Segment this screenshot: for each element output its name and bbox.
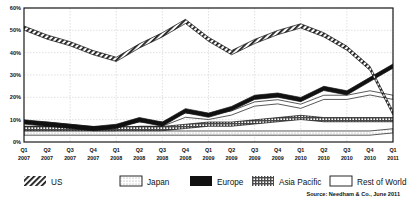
x-tick-label-year: 2009 <box>249 155 261 161</box>
legend-label-us: US <box>51 178 63 187</box>
y-tick-label: 0% <box>13 139 21 145</box>
x-tick-label-year: 2010 <box>364 155 376 161</box>
x-tick-label-year: 2007 <box>41 155 53 161</box>
x-tick-label-year: 2011 <box>387 155 399 161</box>
source-note: Source: Needham & Co., June 2011 <box>306 191 400 197</box>
x-tick-label-year: 2008 <box>179 155 191 161</box>
x-tick-label-quarter: Q1 <box>297 147 304 153</box>
x-tick-label-year: 2009 <box>203 155 215 161</box>
x-tick-label-year: 2009 <box>226 155 238 161</box>
x-tick-label-year: 2007 <box>87 155 99 161</box>
x-tick-label-quarter: Q2 <box>136 147 143 153</box>
x-tick-label-year: 2008 <box>110 155 122 161</box>
legend-swatch-japan <box>120 176 142 186</box>
legend-swatch-us <box>24 176 46 186</box>
x-tick-label-quarter: Q4 <box>366 147 373 153</box>
x-tick-label-year: 2009 <box>272 155 284 161</box>
y-tick-label: 30% <box>10 72 21 78</box>
y-tick-label: 60% <box>10 5 21 11</box>
legend-swatch-rest-of-world <box>330 176 352 186</box>
legend-label-europe: Europe <box>217 178 244 187</box>
x-tick-label-quarter: Q2 <box>43 147 50 153</box>
x-tick-label-year: 2010 <box>295 155 307 161</box>
x-tick-label-quarter: Q3 <box>343 147 350 153</box>
x-tick-label-quarter: Q2 <box>228 147 235 153</box>
x-tick-label-year: 2007 <box>64 155 76 161</box>
legend-swatch-europe <box>190 176 212 186</box>
legend-label-japan: Japan <box>147 178 170 187</box>
legend-swatch-asia-pacific <box>252 176 274 186</box>
x-tick-label-year: 2010 <box>341 155 353 161</box>
x-tick-label-quarter: Q2 <box>320 147 327 153</box>
y-tick-label: 50% <box>10 27 21 33</box>
x-tick-label-quarter: Q3 <box>251 147 258 153</box>
y-tick-label: 40% <box>10 50 21 56</box>
x-tick-label-year: 2007 <box>18 155 30 161</box>
x-tick-label-quarter: Q3 <box>159 147 166 153</box>
legend-label-rest-of-world: Rest of World <box>357 178 407 187</box>
y-tick-label: 20% <box>10 94 21 100</box>
x-tick-label-quarter: Q4 <box>182 147 189 153</box>
legend-label-asia-pacific: Asia Pacific <box>279 178 321 187</box>
x-tick-label-year: 2008 <box>133 155 145 161</box>
x-tick-label-quarter: Q1 <box>389 147 396 153</box>
x-tick-label-quarter: Q4 <box>90 147 97 153</box>
x-tick-label-quarter: Q1 <box>113 147 120 153</box>
y-tick-label: 10% <box>10 117 21 123</box>
x-tick-label-year: 2010 <box>318 155 330 161</box>
x-tick-label-year: 2008 <box>156 155 168 161</box>
x-tick-label-quarter: Q3 <box>67 147 74 153</box>
x-tick-label-quarter: Q1 <box>205 147 212 153</box>
chart-container: 0%10%20%30%40%50%60% Q12007Q22007Q32007Q… <box>0 0 409 204</box>
x-tick-label-quarter: Q1 <box>20 147 27 153</box>
x-tick-label-quarter: Q4 <box>274 147 281 153</box>
chart-svg: 0%10%20%30%40%50%60% Q12007Q22007Q32007Q… <box>0 0 409 204</box>
